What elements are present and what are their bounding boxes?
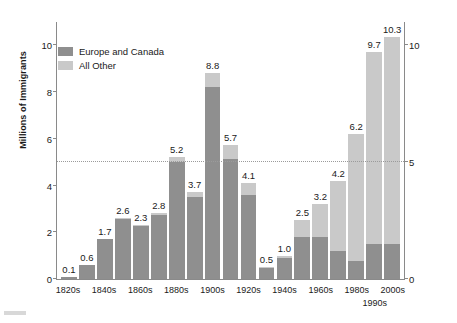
bar-value-label: 9.7 — [368, 39, 381, 50]
bar-value-label: 3.7 — [188, 179, 201, 190]
legend-item-all-other: All Other — [58, 60, 164, 71]
x-axis-tick-label: 1990s — [363, 298, 388, 308]
bar-segment-all-other — [223, 145, 239, 159]
y-axis-right-tick-mark — [404, 278, 408, 279]
y-axis-tick-mark — [53, 278, 57, 279]
x-axis-tick-label: 1940s — [272, 285, 297, 295]
bar-segment-europe-and-canada — [384, 244, 400, 279]
bar-value-label: 0.1 — [62, 264, 75, 275]
bar-value-label: 2.8 — [152, 200, 165, 211]
bar-segment-all-other — [205, 73, 221, 87]
bar[interactable]: 4.1 — [241, 22, 257, 279]
bar-segment-europe-and-canada — [169, 162, 185, 279]
x-axis-tick-label: 1820s — [56, 285, 81, 295]
bar-value-label: 0.5 — [260, 254, 273, 265]
bar-value-label: 2.5 — [296, 207, 309, 218]
legend-swatch-icon — [58, 61, 73, 70]
bar-segment-europe-and-canada — [259, 268, 275, 279]
x-axis-tick-label: 2000s — [381, 285, 406, 295]
y-axis-tick-label: 4 — [47, 180, 57, 191]
bar-value-label: 2.6 — [116, 205, 129, 216]
bar-segment-europe-and-canada — [187, 197, 203, 279]
bar-segment-europe-and-canada — [241, 195, 257, 279]
bar-segment-all-other — [348, 134, 364, 262]
legend-label: Europe and Canada — [79, 46, 164, 57]
bar-segment-all-other — [241, 183, 257, 195]
bar[interactable]: 5.2 — [169, 22, 185, 279]
x-axis-tick-label: 1960s — [308, 285, 333, 295]
y-axis-tick-label: 10 — [41, 40, 57, 51]
immigration-bar-chart: Millions of Immigrants 0.10.61.72.62.32.… — [0, 0, 457, 323]
y-axis-tick-mark — [53, 91, 57, 92]
bar-value-label: 5.2 — [170, 144, 183, 155]
y-axis-right-tick-mark — [404, 44, 408, 45]
y-axis-right-tick-label: 0 — [404, 274, 414, 285]
bar[interactable]: 3.7 — [187, 22, 203, 279]
bar[interactable]: 6.2 — [348, 22, 364, 279]
bar-segment-europe-and-canada — [294, 237, 310, 279]
legend-label: All Other — [79, 60, 116, 71]
scan-artifact — [4, 311, 26, 315]
bar-value-label: 4.2 — [332, 168, 345, 179]
y-axis-tick-label: 6 — [47, 133, 57, 144]
bar-value-label: 4.1 — [242, 170, 255, 181]
x-axis-tick-label: 1920s — [236, 285, 261, 295]
bar-segment-europe-and-canada — [330, 251, 346, 279]
bar-value-label: 6.2 — [350, 121, 363, 132]
bar-segment-all-other — [294, 220, 310, 236]
bar-value-label: 1.7 — [98, 226, 111, 237]
x-axis-tick-label: 1840s — [92, 285, 117, 295]
bar-value-label: 1.0 — [278, 243, 291, 254]
bar-segment-all-other — [366, 52, 382, 244]
bar-segment-europe-and-canada — [277, 258, 293, 279]
legend-swatch-icon — [58, 47, 73, 56]
x-axis: 1820s1840s1860s1880s1900s1920s1940s1960s… — [56, 283, 405, 319]
bar[interactable]: 4.2 — [330, 22, 346, 279]
bar[interactable]: 0.5 — [259, 22, 275, 279]
bar-segment-europe-and-canada — [133, 226, 149, 279]
bar-segment-europe-and-canada — [97, 239, 113, 279]
y-axis-tick-mark — [53, 138, 57, 139]
bar-segment-all-other — [384, 37, 400, 243]
bar-segment-europe-and-canada — [205, 87, 221, 279]
bar-segment-europe-and-canada — [223, 159, 239, 279]
bar-segment-all-other — [330, 181, 346, 251]
bar[interactable]: 9.7 — [366, 22, 382, 279]
bar-segment-europe-and-canada — [115, 219, 131, 279]
x-axis-tick-label: 1900s — [200, 285, 225, 295]
bar[interactable]: 8.8 — [205, 22, 221, 279]
bar-segment-all-other — [312, 204, 328, 237]
bar[interactable]: 2.5 — [294, 22, 310, 279]
reference-line — [57, 161, 404, 162]
bar-segment-europe-and-canada — [151, 215, 167, 280]
y-axis-tick-label: 2 — [47, 227, 57, 238]
x-axis-tick-label: 1880s — [164, 285, 189, 295]
bar-segment-europe-and-canada — [366, 244, 382, 279]
legend-item-europe-and-canada: Europe and Canada — [58, 46, 164, 57]
bar[interactable]: 3.2 — [312, 22, 328, 279]
y-axis-title: Millions of Immigrants — [18, 35, 28, 165]
y-axis-tick-mark — [53, 44, 57, 45]
bar[interactable]: 10.3 — [384, 22, 400, 279]
x-axis-tick-label: 1860s — [128, 285, 153, 295]
bar-segment-europe-and-canada — [79, 265, 95, 279]
bar-value-label: 5.7 — [224, 132, 237, 143]
bar-value-label: 10.3 — [383, 24, 402, 35]
bar-value-label: 0.6 — [80, 252, 93, 263]
y-axis-right-tick-label: 5 — [404, 157, 414, 168]
bar-value-label: 8.8 — [206, 60, 219, 71]
bar[interactable]: 1.0 — [277, 22, 293, 279]
bar-segment-europe-and-canada — [348, 261, 364, 279]
bar-segment-europe-and-canada — [61, 277, 77, 279]
y-axis-right-tick-mark — [404, 161, 408, 162]
y-axis-tick-label: 8 — [47, 87, 57, 98]
bar-value-label: 2.3 — [134, 212, 147, 223]
y-axis-right-tick-label: 10 — [404, 40, 420, 51]
bar-value-label: 3.2 — [314, 191, 327, 202]
x-axis-tick-label: 1980s — [345, 285, 370, 295]
y-axis-tick-mark — [53, 231, 57, 232]
bar-segment-europe-and-canada — [312, 237, 328, 279]
legend: Europe and Canada All Other — [58, 46, 164, 74]
y-axis-tick-mark — [53, 185, 57, 186]
bar[interactable]: 5.7 — [223, 22, 239, 279]
